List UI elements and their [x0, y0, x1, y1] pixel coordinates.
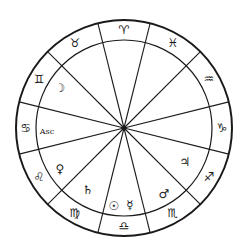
- zodiac-leo-icon: ♌: [34, 170, 45, 184]
- planet-saturn-icon: ♄: [83, 183, 94, 197]
- zodiac-taurus-icon: ♉: [70, 36, 81, 50]
- zodiac-aries-icon: ♈: [119, 23, 130, 37]
- cusp-line: [98, 23, 124, 128]
- cusp-line: [124, 128, 229, 154]
- zodiac-cancer-icon: ♋: [21, 121, 32, 135]
- cusp-line: [124, 102, 229, 128]
- cusp-line: [19, 102, 124, 128]
- cusp-line: [124, 128, 150, 233]
- planet-glyphs: ☽Asc♀♄☉☿♂♃: [39, 81, 191, 213]
- planet-ascendant-icon: Asc: [39, 127, 55, 136]
- zodiac-aquarius-icon: ♒: [203, 72, 214, 86]
- cusp-line: [124, 23, 150, 128]
- zodiac-gemini-icon: ♊: [34, 72, 45, 86]
- planet-jupiter-icon: ♃: [180, 155, 191, 169]
- zodiac-sagittarius-icon: ♐: [203, 170, 214, 184]
- planet-mercury-icon: ☿: [126, 198, 133, 212]
- cusp-line: [19, 128, 124, 154]
- cusp-line: [98, 128, 124, 233]
- zodiac-libra-icon: ♎: [119, 219, 130, 233]
- planet-mars-icon: ♂: [159, 187, 170, 201]
- planet-sun-icon: ☉: [109, 199, 120, 213]
- center-hub: [122, 126, 127, 131]
- zodiac-scorpio-icon: ♏: [168, 206, 179, 220]
- astrological-chart: ♈♓♒♑♐♏♎♍♌♋♊♉ ☽Asc♀♄☉☿♂♃: [0, 0, 246, 252]
- zodiac-pisces-icon: ♓: [168, 36, 179, 50]
- zodiac-capricorn-icon: ♑: [217, 121, 228, 135]
- zodiac-virgo-icon: ♍: [70, 206, 81, 220]
- planet-venus-icon: ♀: [56, 162, 65, 176]
- cusp-line: [124, 52, 200, 128]
- planet-moon-icon: ☽: [55, 81, 66, 95]
